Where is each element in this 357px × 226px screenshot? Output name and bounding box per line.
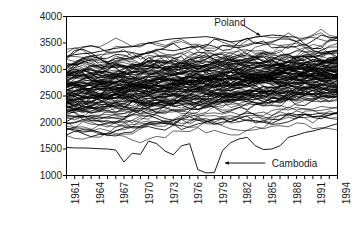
annotation-label-poland: Poland xyxy=(214,17,245,28)
data-lines-layer xyxy=(67,29,338,173)
annotation-label-cambodia: Cambodia xyxy=(272,158,318,169)
chart-figure: Caloric supply/capita/day 40003500300025… xyxy=(0,0,357,226)
plot-canvas xyxy=(0,0,357,226)
